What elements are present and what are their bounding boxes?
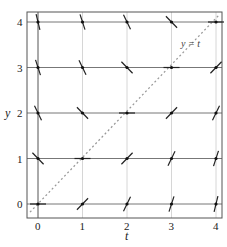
grid-point	[125, 202, 128, 205]
grid-point	[170, 66, 173, 69]
grid-point	[170, 20, 173, 23]
grid-point	[36, 20, 39, 23]
grid-point	[214, 20, 217, 23]
grid-point	[36, 111, 39, 114]
grid-point	[170, 157, 173, 160]
y-axis-label: y	[4, 106, 11, 120]
x-tick-label: 0	[35, 220, 41, 232]
grid-point	[214, 111, 217, 114]
y-tick-labels: 01234	[17, 16, 23, 210]
y-tick-label: 0	[17, 198, 23, 210]
grid-point	[81, 66, 84, 69]
y-tick-label: 1	[17, 153, 23, 165]
x-tick-label: 1	[80, 220, 86, 232]
grid-point	[214, 157, 217, 160]
grid-point	[36, 66, 39, 69]
slope-field-diagram: 01234 01234 t y y = t	[0, 0, 227, 247]
y-tick-label: 4	[17, 16, 23, 28]
x-tick-label: 4	[213, 220, 219, 232]
grid-point	[36, 202, 39, 205]
y-equals-t-annotation: y = t	[180, 38, 200, 49]
grid-point	[125, 20, 128, 23]
grid-point	[125, 157, 128, 160]
y-tick-label: 3	[17, 62, 23, 74]
grid-point	[125, 66, 128, 69]
grid-point	[214, 202, 217, 205]
x-tick-label: 3	[169, 220, 175, 232]
grid-point	[125, 111, 128, 114]
grid-point	[81, 202, 84, 205]
y-tick-label: 2	[17, 107, 23, 119]
grid-point	[81, 111, 84, 114]
grid-point	[170, 111, 173, 114]
grid-point	[81, 20, 84, 23]
grid-point	[81, 157, 84, 160]
grid-point	[214, 66, 217, 69]
grid-point	[170, 202, 173, 205]
grid-point	[36, 157, 39, 160]
